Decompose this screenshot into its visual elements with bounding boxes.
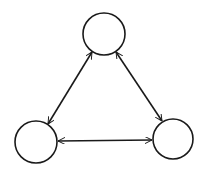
edge-top-bottom-right [116, 52, 162, 121]
node-bottom-left [15, 121, 57, 163]
edge-bottom-left-bottom-right [58, 140, 152, 141]
node-top [83, 13, 125, 55]
node-bottom-right [153, 119, 193, 159]
edge-top-bottom-left [48, 52, 92, 124]
triangle-graph-diagram [0, 0, 202, 178]
edges [48, 52, 162, 141]
